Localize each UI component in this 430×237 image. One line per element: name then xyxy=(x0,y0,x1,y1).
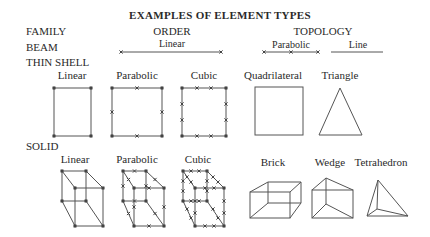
solid-brick-element xyxy=(250,182,301,218)
solid-tetrahedron-element xyxy=(367,180,408,216)
shell-linear-element xyxy=(53,87,92,137)
beam-parabolic-element xyxy=(262,50,319,53)
shell-cubic-element xyxy=(180,86,227,137)
shell-triangle-element xyxy=(319,88,362,135)
shell-quadrilateral-element xyxy=(255,87,303,135)
solid-cubic-element xyxy=(181,169,225,227)
solid-linear-element xyxy=(61,170,104,227)
beam-linear-element xyxy=(119,50,222,53)
solid-wedge-element xyxy=(312,178,353,218)
shell-parabolic-element xyxy=(110,86,163,137)
solid-parabolic-element xyxy=(121,169,165,227)
